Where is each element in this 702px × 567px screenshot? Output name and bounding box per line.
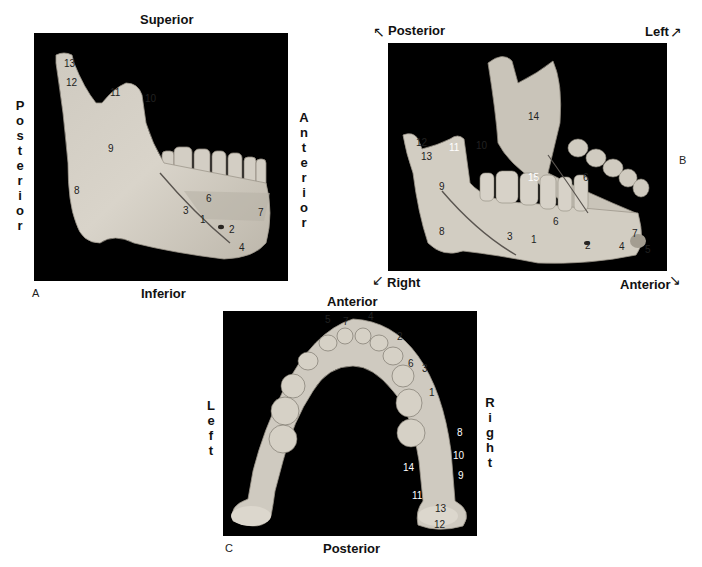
mandible-lateral-illustration	[34, 33, 288, 281]
label-5: 5	[325, 314, 331, 325]
panel-c-posterior-label: Posterior	[323, 541, 380, 556]
label-8: 8	[74, 185, 80, 196]
label-6-far: 6	[583, 172, 589, 183]
panel-c-letter: C	[225, 542, 233, 554]
label-7: 7	[258, 207, 264, 218]
label-9: 9	[439, 181, 445, 192]
panel-a-superior-label: Superior	[140, 12, 193, 27]
panel-b-image: 14 12 13 11 10 15 6 9 6 7 8 3 1 2 4 5	[388, 43, 667, 271]
panel-c-anterior-label: Anterior	[327, 294, 378, 309]
label-8: 8	[439, 226, 445, 237]
label-10: 10	[145, 93, 156, 104]
panel-a-anterior-label: A n t e r i o r	[297, 110, 311, 230]
label-8: 8	[457, 427, 463, 438]
label-5: 5	[645, 244, 651, 255]
label-9: 9	[458, 470, 464, 481]
label-10: 10	[476, 140, 487, 151]
label-2: 2	[585, 240, 591, 251]
label-7: 7	[632, 228, 638, 239]
label-9: 9	[108, 143, 114, 154]
label-2: 2	[397, 331, 403, 342]
label-3: 3	[422, 363, 428, 374]
label-13: 13	[435, 503, 446, 514]
label-4: 4	[368, 311, 374, 322]
label-11: 11	[412, 490, 422, 501]
label-6: 6	[408, 358, 414, 369]
panel-a-letter: A	[32, 287, 39, 299]
label-2: 2	[229, 224, 235, 235]
label-10: 10	[453, 450, 464, 461]
label-11: 11	[449, 142, 459, 153]
arrow-se-icon: ↘	[669, 272, 681, 288]
label-11: 11	[110, 87, 120, 98]
label-7: 7	[343, 316, 349, 327]
arrow-sw-icon: ↙	[372, 272, 384, 288]
panel-b-anterior-label: Anterior	[620, 277, 671, 292]
label-1: 1	[200, 214, 206, 225]
label-14: 14	[528, 111, 539, 122]
arrow-ne-icon: ↗	[670, 24, 682, 40]
panel-b-posterior-label: Posterior	[388, 23, 445, 38]
label-6-near: 6	[553, 216, 559, 227]
label-13: 12	[66, 77, 77, 88]
panel-c-left-label: L e f t	[204, 398, 218, 458]
label-14: 14	[403, 462, 414, 473]
label-3: 3	[507, 231, 513, 242]
label-13: 13	[421, 151, 432, 162]
label-12: 12	[416, 137, 427, 148]
panel-b-right-label: Right	[387, 275, 420, 290]
label-1: 1	[429, 387, 435, 398]
label-12: 12	[434, 519, 445, 530]
panel-b-letter: B	[679, 154, 686, 166]
panel-b-left-label: Left	[645, 24, 669, 39]
panel-c-image: 5 7 4 2 6 3 1 8 10 14 9 11 13 12	[223, 311, 477, 536]
panel-a-image: 13 12 11 10 9 8 6 7 3 1 2 4	[34, 33, 288, 281]
panel-a-inferior-label: Inferior	[141, 286, 186, 301]
arrow-nw-icon: ↖	[373, 24, 385, 40]
label-4: 4	[619, 241, 625, 252]
label-4: 4	[239, 242, 245, 253]
label-6: 6	[206, 193, 212, 204]
panel-c-right-label: R i g h t	[483, 395, 497, 470]
label-3: 3	[183, 205, 189, 216]
panel-a-posterior-label: P o s t e r i o r	[13, 98, 27, 233]
label-15: 15	[528, 172, 539, 183]
label-1: 1	[531, 234, 537, 245]
label-12: 13	[64, 58, 75, 69]
